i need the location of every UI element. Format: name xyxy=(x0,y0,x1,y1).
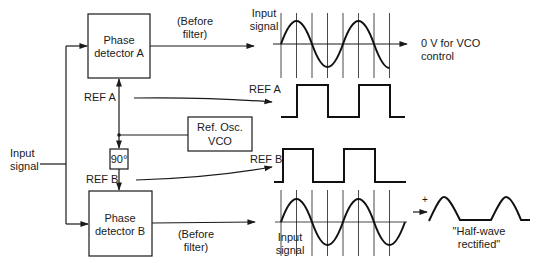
ref-b-square-wave xyxy=(274,149,406,182)
input-signal-top-label-2: signal xyxy=(250,20,279,32)
ref-a-wave-label: REF A xyxy=(249,83,281,95)
phase-shift-90-label: 90° xyxy=(111,153,128,165)
phase-detector-diagram: Input signal Phase detector A Phase dete… xyxy=(0,0,541,263)
ref-b-wave-label: REF B xyxy=(250,153,282,165)
phase-detector-b-label-2: detector B xyxy=(95,225,145,237)
ref-osc-vco-label-2: VCO xyxy=(208,135,232,147)
half-wave-rectified-wave xyxy=(429,197,530,221)
input-signal-label: Input xyxy=(10,147,34,159)
ref-a-square-wave xyxy=(281,85,405,117)
detector-b-output-arrow xyxy=(152,222,255,223)
ref-b-label: REF B xyxy=(86,173,118,185)
phase-detector-a-label: Phase xyxy=(103,34,134,46)
ref-b-pointer-arrow xyxy=(136,167,272,180)
input-signal-bottom-label: Input xyxy=(278,231,302,243)
before-filter-bottom-label-2: filter) xyxy=(184,241,208,253)
top-grid-lines xyxy=(281,13,390,78)
top-waveform-group xyxy=(273,13,407,78)
before-filter-top-label-2: filter) xyxy=(183,28,207,40)
phase-detector-a-box xyxy=(88,14,150,78)
before-filter-top-label: (Before xyxy=(177,15,213,27)
half-wave-label: "Half-wave xyxy=(453,225,506,237)
phase-detector-b-label: Phase xyxy=(104,212,135,224)
half-wave-label-2: rectified" xyxy=(458,238,501,250)
phase-detector-a-label-2: detector A xyxy=(94,47,144,59)
vco-control-label-2: control xyxy=(421,50,454,62)
before-filter-bottom-label: (Before xyxy=(178,228,214,240)
input-signal-label-2: signal xyxy=(10,160,39,172)
ref-a-label: REF A xyxy=(84,91,116,103)
ref-a-pointer-arrow xyxy=(134,98,272,102)
vco-control-label: 0 V for VCO xyxy=(421,37,481,49)
plus-sign: + xyxy=(422,194,428,205)
input-signal-top-label: Input xyxy=(252,7,276,19)
input-signal-bottom-label-2: signal xyxy=(276,244,305,256)
ref-osc-vco-label: Ref. Osc. xyxy=(197,121,243,133)
